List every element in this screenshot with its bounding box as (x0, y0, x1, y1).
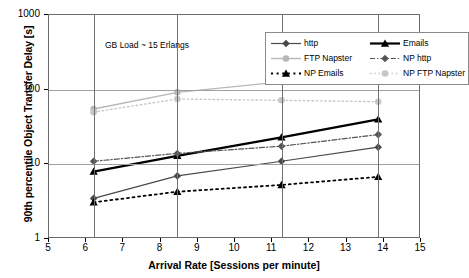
plot-area: GB Load ~ 15 Erlangs httpEmailsFTP Napst… (48, 14, 420, 238)
series-http (90, 143, 382, 202)
legend-label: NP FTP Napster (403, 68, 465, 79)
x-tick-label: 9 (187, 242, 207, 253)
x-axis-title: Arrival Rate [Sessions per minute] (48, 259, 420, 271)
series-line (94, 177, 379, 202)
plot-annotation: GB Load ~ 15 Erlangs (105, 40, 189, 50)
chart-legend: httpEmailsFTP NapsterNP httpNP EmailsNP … (265, 32, 469, 85)
y-tick-label: 1000 (8, 8, 40, 19)
y-tick-label: 100 (8, 83, 40, 94)
y-axis-title: 90th percentile Object Transfer Delay [s… (22, 4, 34, 244)
series-line (94, 135, 379, 162)
x-tick-label: 7 (112, 242, 132, 253)
data-point-marker (283, 55, 290, 62)
series-np-ftp-napster (90, 96, 381, 116)
legend-item-http[interactable]: http (268, 38, 367, 49)
legend-label: FTP Napster (304, 53, 352, 64)
legend-row: NP EmailsNP FTP Napster (268, 66, 466, 81)
x-tick-label: 6 (75, 242, 95, 253)
legend-row: httpEmails (268, 36, 466, 51)
x-tick-label: 8 (150, 242, 170, 253)
x-tick-label: 13 (336, 242, 356, 253)
legend-swatch-triangle-icon (271, 68, 301, 79)
legend-item-np-http[interactable]: NP http (367, 53, 466, 64)
x-tick-label: 12 (298, 242, 318, 253)
legend-swatch-diamond-icon (370, 53, 400, 64)
legend-label: Emails (403, 38, 429, 49)
legend-item-np-emails[interactable]: NP Emails (268, 68, 367, 79)
legend-row: FTP NapsterNP http (268, 51, 466, 66)
series-emails (90, 115, 383, 175)
y-tick-label: 10 (8, 157, 40, 168)
x-tick-label: 14 (373, 242, 393, 253)
x-tick-label: 10 (224, 242, 244, 253)
x-tick-label: 5 (38, 242, 58, 253)
legend-swatch-circle-icon (370, 68, 400, 79)
gridline-vertical (94, 15, 95, 237)
data-point-marker (282, 40, 290, 48)
data-point-marker (381, 55, 389, 63)
legend-label: NP http (403, 53, 431, 64)
series-line (94, 147, 379, 198)
legend-swatch-circle-icon (271, 53, 301, 64)
y-tick-label: 1 (8, 232, 40, 243)
legend-item-np-ftp-napster[interactable]: NP FTP Napster (367, 68, 466, 79)
legend-label: NP Emails (304, 68, 344, 79)
gridline-horizontal (49, 164, 419, 165)
legend-swatch-triangle-icon (370, 38, 400, 49)
legend-swatch-diamond-icon (271, 38, 301, 49)
x-tick-label: 11 (261, 242, 281, 253)
series-np-emails (90, 173, 383, 206)
x-tick-label: 15 (410, 242, 430, 253)
legend-label: http (304, 38, 318, 49)
series-np-http (90, 131, 382, 165)
gridline-horizontal (49, 90, 419, 91)
legend-item-emails[interactable]: Emails (367, 38, 466, 49)
data-point-marker (382, 70, 389, 77)
legend-item-ftp-napster[interactable]: FTP Napster (268, 53, 367, 64)
